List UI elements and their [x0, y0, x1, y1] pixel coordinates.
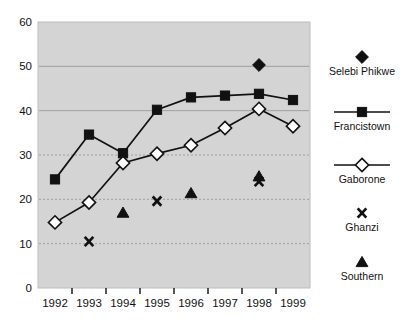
chart-figure: 6050403020100 19921993199419951996199719…	[0, 0, 407, 326]
y-tick-label-0: 0	[26, 282, 32, 294]
plot-area-background	[38, 22, 310, 288]
legend-label-francistown: Francistown	[334, 120, 391, 132]
legend-marker-selebi-phikwe	[356, 51, 369, 64]
data-point-francistown-1996	[186, 93, 195, 102]
legend-entry-selebi-phikwe[interactable]: Selebi Phikwe	[329, 51, 395, 77]
y-tick-label-20: 20	[19, 193, 32, 205]
x-tick-label-1993: 1993	[76, 297, 102, 309]
legend-marker-francistown	[357, 107, 366, 116]
data-point-francistown-1999	[288, 95, 297, 104]
x-tick-label-1999: 1999	[280, 297, 306, 309]
x-axis-ticks	[72, 288, 276, 294]
y-tick-label-40: 40	[19, 105, 32, 117]
legend-entry-southern[interactable]: Southern	[341, 256, 384, 282]
x-tick-label-1995: 1995	[144, 297, 170, 309]
y-tick-label-10: 10	[19, 238, 32, 250]
data-point-francistown-1992	[50, 175, 59, 184]
x-tick-label-1996: 1996	[178, 297, 204, 309]
line-chart: 6050403020100 19921993199419951996199719…	[0, 0, 407, 326]
data-point-francistown-1997	[220, 91, 229, 100]
x-tick-label-1992: 1992	[42, 297, 68, 309]
legend-label-gaborone: Gaborone	[339, 173, 386, 185]
legend-entry-ghanzi[interactable]: Ghanzi	[345, 208, 378, 233]
chart-legend: Selebi PhikweFrancistownGaboroneGhanziSo…	[329, 51, 395, 282]
legend-label-southern: Southern	[341, 270, 384, 282]
y-tick-label-60: 60	[19, 16, 32, 28]
x-tick-label-1998: 1998	[246, 297, 272, 309]
legend-entry-francistown[interactable]: Francistown	[334, 107, 391, 132]
legend-label-ghanzi: Ghanzi	[345, 221, 378, 233]
x-tick-label-1997: 1997	[212, 297, 238, 309]
legend-entry-gaborone[interactable]: Gaborone	[334, 158, 390, 185]
data-point-francistown-1995	[152, 105, 161, 114]
x-axis-tick-labels: 19921993199419951996199719981999	[42, 297, 306, 309]
y-tick-label-30: 30	[19, 149, 32, 161]
legend-marker-gaborone	[355, 158, 368, 171]
legend-label-selebi-phikwe: Selebi Phikwe	[329, 65, 395, 77]
legend-marker-southern	[356, 256, 368, 266]
legend-marker-ghanzi	[358, 208, 367, 217]
x-tick-label-1994: 1994	[110, 297, 136, 309]
y-tick-label-50: 50	[19, 60, 32, 72]
y-axis-tick-labels: 6050403020100	[19, 16, 32, 294]
data-point-francistown-1998	[254, 89, 263, 98]
data-point-francistown-1993	[84, 130, 93, 139]
